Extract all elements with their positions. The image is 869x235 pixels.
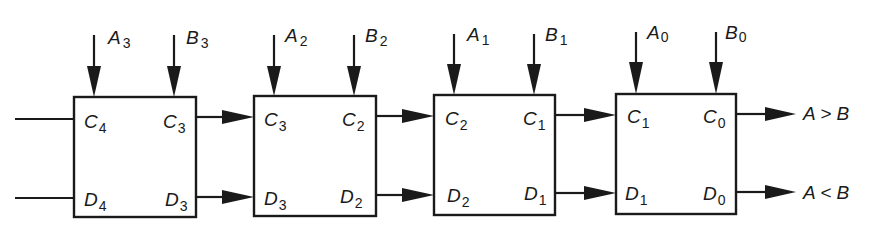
stage-2-block: A2 B2 C3 C2 D3 D2 <box>254 25 388 216</box>
label-b1: B1 <box>545 24 568 48</box>
a2-arrowhead-icon <box>267 66 281 96</box>
d1-arrowhead-icon <box>584 186 616 200</box>
output-label-greater: A > B <box>802 103 850 124</box>
b0-arrowhead-icon <box>709 62 723 94</box>
stage-0-block: A0 B0 C1 C0 D1 D0 <box>616 22 747 214</box>
c3-arrowhead-icon <box>222 110 254 124</box>
label-a0: A0 <box>646 22 669 45</box>
output-label-less: A < B <box>802 182 850 203</box>
a3-arrowhead-icon <box>87 66 101 97</box>
c2-arrowhead-icon <box>402 109 434 123</box>
a0-arrowhead-icon <box>629 62 643 94</box>
label-a1: A1 <box>466 24 490 48</box>
b3-arrowhead-icon <box>167 66 181 97</box>
b1-arrowhead-icon <box>527 64 541 95</box>
b2-arrowhead-icon <box>347 66 361 96</box>
d3-arrowhead-icon <box>222 190 254 204</box>
stage-3-block: A3 B3 C4 C3 D4 D3 <box>74 27 209 217</box>
label-b3: B3 <box>186 27 209 51</box>
d2-arrowhead-icon <box>402 188 434 202</box>
c1-arrowhead-icon <box>584 108 616 122</box>
comparator-diagram: A3 B3 C4 C3 D4 D3 A2 B2 C3 C2 D3 D2 A1 B… <box>0 0 869 235</box>
stage-1-block: A1 B1 C2 C1 D2 D1 <box>434 24 568 215</box>
label-b0: B0 <box>725 22 747 45</box>
label-a3: A3 <box>107 27 131 51</box>
label-a2: A2 <box>284 25 308 49</box>
greater-output-arrowhead-icon <box>765 107 796 121</box>
a1-arrowhead-icon <box>447 64 461 95</box>
label-b2: B2 <box>365 25 388 49</box>
less-output-arrowhead-icon <box>765 185 796 199</box>
